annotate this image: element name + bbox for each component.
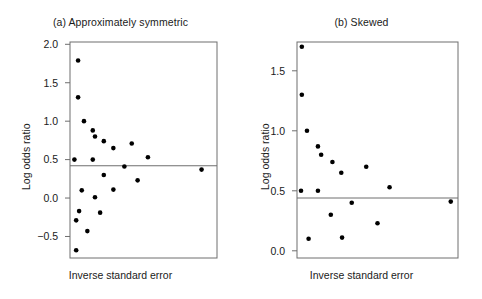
panel-a-data-point <box>90 128 95 133</box>
panel-b-data-point <box>319 153 324 158</box>
panel-approximately-symmetric: (a) Approximately symmetric Log odds rat… <box>0 0 241 299</box>
panel-a-data-point <box>76 95 81 100</box>
panel-a-data-point <box>129 141 134 146</box>
panel-a-data-point <box>102 139 107 144</box>
panel-a-data-point <box>146 155 151 160</box>
panel-b-data-point <box>349 201 354 206</box>
panel-a-data-point <box>82 119 87 124</box>
panel-a-data-point <box>76 58 81 63</box>
panel-b-data-point <box>300 93 305 98</box>
panel-a-data-point <box>93 195 98 200</box>
panel-a-data-point <box>111 187 116 192</box>
panel-b-data-point <box>300 45 305 50</box>
panel-b-data-point <box>316 144 321 149</box>
panel-a-data-point <box>98 210 103 215</box>
panel-a-y-tick-label: 1.5 <box>43 77 58 89</box>
panel-a-y-tick-label: −0.5 <box>37 230 58 242</box>
panel-a-data-point <box>102 173 107 178</box>
panel-a-data-point <box>74 248 79 253</box>
panel-b-data-point <box>364 165 369 170</box>
panel-a-data-point <box>199 167 204 172</box>
panel-a-y-tick-label: 0.5 <box>43 153 58 165</box>
panel-a-data-point <box>93 134 98 139</box>
panel-b-data-point <box>330 160 335 165</box>
panel-b-y-tick-label: 1.0 <box>270 125 285 137</box>
panel-a-data-point <box>90 157 95 162</box>
panel-b-plot-area: 1.51.00.50.0 <box>241 0 482 299</box>
panel-a-data-point <box>74 218 79 223</box>
panel-b-data-point <box>305 129 310 134</box>
panel-b-data-point <box>339 171 344 176</box>
panel-b-data-point <box>387 185 392 190</box>
panel-a-y-tick-label: 0.0 <box>43 192 58 204</box>
panel-a-data-point <box>135 178 140 183</box>
panel-a-data-point <box>111 146 116 151</box>
funnel-plot-figure: (a) Approximately symmetric Log odds rat… <box>0 0 482 299</box>
panel-a-data-point <box>122 164 127 169</box>
panel-b-y-tick-label: 0.5 <box>270 185 285 197</box>
panel-b-data-point <box>375 221 380 226</box>
panel-a-data-point <box>72 157 77 162</box>
panel-a-plot-area: 2.01.51.00.50.0−0.5 <box>0 0 241 299</box>
panel-b-data-point <box>316 189 321 194</box>
panel-b-y-tick-label: 1.5 <box>270 65 285 77</box>
panel-b-data-point <box>299 189 304 194</box>
panel-b-data-point <box>329 213 334 218</box>
panel-a-data-point <box>85 229 90 234</box>
panel-b-y-tick-label: 0.0 <box>270 245 285 257</box>
panel-b-data-point <box>340 235 345 240</box>
panel-a-x-axis-label: Inverse standard error <box>0 269 241 281</box>
panel-b-frame <box>297 42 458 258</box>
panel-b-data-point <box>306 237 311 242</box>
panel-a-y-tick-label: 2.0 <box>43 38 58 50</box>
panel-b-x-axis-label: Inverse standard error <box>241 269 482 281</box>
panel-a-data-point <box>79 188 84 193</box>
panel-skewed: (b) Skewed Log odds ratio 1.51.00.50.0 I… <box>241 0 482 299</box>
panel-a-frame <box>70 42 217 258</box>
panel-b-data-point <box>448 199 453 204</box>
panel-a-y-tick-label: 1.0 <box>43 115 58 127</box>
panel-a-data-point <box>77 209 82 214</box>
